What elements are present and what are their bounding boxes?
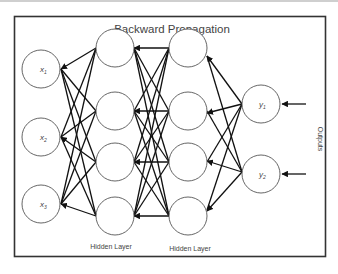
- hidden2-node: [169, 92, 207, 130]
- diagram-title: Backward Propagation: [114, 23, 230, 35]
- edges-output-to-hidden2: [207, 56, 242, 211]
- output-layer: y1 y2: [242, 85, 280, 193]
- hidden2-node: [169, 29, 207, 67]
- edges-hidden1-to-input: [61, 48, 96, 216]
- edges-hidden2-to-hidden1: [134, 48, 169, 216]
- hidden1-node: [96, 197, 134, 235]
- input-layer: x1 x2 x3: [22, 50, 60, 223]
- hidden2-node: [169, 143, 207, 181]
- hidden1-node: [96, 143, 134, 181]
- hidden-layer-2: Hidden Layer: [169, 29, 211, 253]
- outputs-label: Outputs: [316, 127, 324, 152]
- hidden-layer-2-label: Hidden Layer: [169, 245, 211, 253]
- hidden-layer-1-label: Hidden Layer: [90, 243, 132, 251]
- hidden2-node: [169, 197, 207, 235]
- backprop-diagram: Backward Propagation: [0, 0, 338, 274]
- hidden-layer-1: Hidden Layer: [90, 29, 134, 251]
- hidden1-node: [96, 92, 134, 130]
- hidden1-node: [96, 29, 134, 67]
